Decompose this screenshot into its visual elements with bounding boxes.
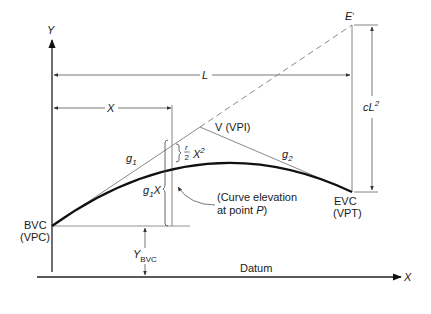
r2x2-fraction-num: r (185, 143, 188, 152)
cl2-label: cL2 (363, 99, 380, 113)
vpi-label: V (VPI) (215, 121, 250, 133)
g1x-brace (163, 140, 168, 226)
r2x2-label: X2 (192, 146, 205, 160)
annotation-line2: at point P) (217, 204, 267, 216)
vpc-label: (VPC) (20, 231, 50, 243)
r2x2-brace (176, 144, 181, 162)
grade-g1-label: g1 (126, 152, 137, 167)
ybvc-label: YBVC (133, 248, 157, 264)
datum-label: Datum (240, 262, 272, 274)
annotation-line1: (Curve elevation (217, 191, 297, 203)
g1x-label: g1X (143, 184, 162, 199)
e-prime-label: E′ (345, 10, 354, 22)
point-p-leader (178, 187, 215, 205)
length-label: L (202, 69, 208, 81)
y-axis-label: Y (47, 24, 55, 36)
grade-g2-label: g2 (282, 148, 293, 163)
tangent-extension-dashed (200, 25, 352, 127)
x-distance-label: X (106, 102, 115, 114)
bvc-label: BVC (24, 219, 47, 231)
vpt-label: (VPT) (333, 207, 362, 219)
vertical-curve-diagram: Y X Datum L X cL2 E′ g1X r 2 X2 (0, 0, 431, 314)
evc-label: EVC (334, 195, 357, 207)
x-axis-label: X (403, 271, 412, 283)
r2x2-fraction-den: 2 (185, 153, 190, 162)
